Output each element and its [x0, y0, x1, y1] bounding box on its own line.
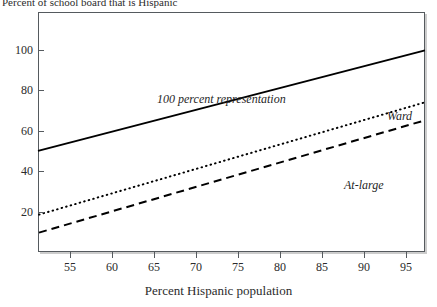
chart-figure: Percent of school board that is Hispanic…	[0, 0, 437, 307]
x-tick-label: 75	[223, 261, 253, 274]
series-line-at-large	[39, 121, 424, 233]
y-tick-mark	[38, 90, 44, 91]
x-tick-mark	[196, 252, 197, 258]
y-tick-label: 80	[0, 84, 33, 96]
x-tick-mark	[280, 252, 281, 258]
x-tick-mark	[322, 252, 323, 258]
x-tick-mark	[238, 252, 239, 258]
x-tick-label: 95	[391, 261, 421, 274]
series-line-ward	[39, 103, 424, 215]
annotation-ward: Ward	[387, 110, 412, 123]
x-tick-mark	[364, 252, 365, 258]
x-tick-mark	[154, 252, 155, 258]
y-tick-label: 40	[0, 165, 33, 177]
y-tick-mark	[38, 50, 44, 51]
x-axis-title: Percent Hispanic population	[0, 283, 437, 298]
y-tick-mark	[38, 212, 44, 213]
y-tick-label: 100	[0, 44, 33, 56]
x-tick-mark	[112, 252, 113, 258]
x-tick-label: 60	[97, 261, 127, 274]
series-lines	[39, 13, 424, 251]
x-tick-label: 70	[181, 261, 211, 274]
plot-area: 100 percent representation Ward At-large	[38, 12, 425, 252]
x-tick-label: 65	[139, 261, 169, 274]
x-tick-label: 85	[307, 261, 337, 274]
annotation-representation: 100 percent representation	[157, 93, 286, 106]
y-tick-mark	[38, 131, 44, 132]
y-tick-mark	[38, 171, 44, 172]
plot-inner: 100 percent representation Ward At-large	[39, 13, 424, 251]
y-tick-label: 60	[0, 125, 33, 137]
x-tick-label: 55	[55, 261, 85, 274]
y-axis-caption: Percent of school board that is Hispanic	[2, 0, 177, 8]
x-tick-label: 80	[265, 261, 295, 274]
annotation-at-large: At-large	[344, 179, 384, 192]
x-tick-mark	[406, 252, 407, 258]
y-tick-label: 20	[0, 206, 33, 218]
x-tick-mark	[70, 252, 71, 258]
x-tick-label: 90	[349, 261, 379, 274]
